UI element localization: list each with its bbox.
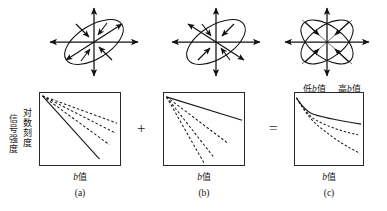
curve-dashed-flat: [42, 96, 117, 123]
diagram-panel-b: [158, 2, 278, 82]
ylabel-char: 信: [8, 114, 19, 124]
x-axis-label-a: b值: [39, 170, 121, 183]
ylabel-char: 对: [22, 108, 33, 118]
decay-curves-c: [296, 98, 361, 153]
figure-root: 信 号 强 度 对 数 刻 度 +: [0, 0, 387, 211]
x-axis-label-b: b值: [163, 170, 245, 183]
ylabel-char: 号: [8, 124, 19, 134]
plot-panel-c: [294, 92, 364, 166]
curve-dashed-mid: [166, 97, 228, 144]
curve-solid-shallow: [166, 97, 242, 120]
ylabel-char: 度: [22, 138, 33, 148]
x-axis-suffix: 值: [78, 172, 87, 182]
panel-caption-c: (c): [294, 188, 364, 198]
ylabel-char: 度: [8, 144, 19, 154]
curve-solid-steep: [42, 96, 99, 159]
x-axis-suffix: 值: [327, 172, 336, 182]
curve-dashed-biexp-mid: [296, 98, 358, 135]
x-axis-label-c: b值: [294, 170, 364, 183]
curve-dashed-steep: [166, 97, 213, 157]
ylabel-char: 数: [22, 118, 33, 128]
curve-dashed-mid: [42, 96, 109, 145]
y-axis-label-signal-intensity: 信 号 强 度: [8, 114, 19, 154]
diagram-panel-a: [36, 2, 156, 82]
panel-caption-a: (a): [39, 188, 121, 198]
curve-solid-biexponential: [296, 98, 361, 124]
plot-panel-a: [39, 92, 121, 166]
decay-curves-b: [166, 97, 242, 163]
operator-equals: =: [269, 121, 277, 136]
ylabel-char: 刻: [22, 128, 33, 138]
y-axis-label-log-scale: 对 数 刻 度: [22, 108, 33, 148]
plot-panel-b: [163, 92, 245, 166]
decay-curves-a: [42, 96, 117, 159]
operator-plus: +: [137, 121, 145, 136]
ylabel-char: 强: [8, 134, 19, 144]
diagram-panel-c: [272, 2, 387, 82]
panel-caption-b: (b): [163, 188, 245, 198]
curve-dashed-shallow: [42, 96, 115, 133]
x-axis-suffix: 值: [202, 172, 211, 182]
